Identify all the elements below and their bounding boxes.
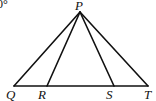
label-q: Q xyxy=(6,87,16,101)
segment-pr xyxy=(47,12,80,86)
label-s: S xyxy=(106,87,113,101)
angle-degree-text: 0° xyxy=(0,0,8,11)
segment-pt xyxy=(80,12,148,86)
triangle-diagram: 0° P Q R S T xyxy=(0,0,156,101)
label-r: R xyxy=(37,87,46,101)
segment-pq xyxy=(14,12,80,86)
label-t: T xyxy=(144,87,152,101)
segment-ps xyxy=(80,12,114,86)
label-p: P xyxy=(74,0,83,13)
